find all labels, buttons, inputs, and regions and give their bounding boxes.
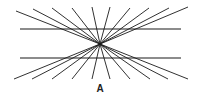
- radiating-line: [100, 7, 188, 44]
- radiating-line: [100, 44, 168, 79]
- radiating-line: [100, 8, 169, 44]
- radiating-line: [32, 44, 100, 79]
- radiating-line: [14, 44, 100, 79]
- radiating-line: [33, 9, 100, 44]
- radiating-line: [100, 44, 188, 79]
- figure-label: A: [93, 83, 107, 94]
